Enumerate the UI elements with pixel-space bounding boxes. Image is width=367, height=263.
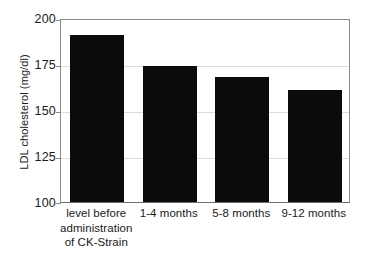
bar xyxy=(215,77,269,202)
x-category-label-line: 1-4 months xyxy=(133,206,206,221)
x-category-label-line: of CK-Strain xyxy=(60,235,133,250)
y-tick-label: 200 xyxy=(22,13,56,25)
bar xyxy=(70,35,124,202)
y-tick-label: 150 xyxy=(22,105,56,117)
y-tick-mark xyxy=(56,203,61,204)
plot-area xyxy=(60,19,350,203)
y-tick-label: 175 xyxy=(22,59,56,71)
bar-chart: LDL cholesterol (mg/dl) 100125150175200 … xyxy=(0,0,367,263)
x-category-label: level beforeadministrationof CK-Strain xyxy=(60,206,133,250)
bar xyxy=(143,66,197,202)
y-axis-tick-labels: 100125150175200 xyxy=(22,0,56,263)
x-category-label-line: 5-8 months xyxy=(205,206,278,221)
x-category-label-line: level before xyxy=(60,206,133,221)
x-category-label-line: 9-12 months xyxy=(278,206,351,221)
bar-series xyxy=(61,20,349,202)
x-category-label: 1-4 months xyxy=(133,206,206,221)
bar xyxy=(288,90,342,202)
y-tick-label: 125 xyxy=(22,151,56,163)
x-category-label: 5-8 months xyxy=(205,206,278,221)
y-tick-label: 100 xyxy=(22,197,56,209)
x-category-label: 9-12 months xyxy=(278,206,351,221)
x-axis-category-labels: level beforeadministrationof CK-Strain1-… xyxy=(60,206,350,262)
x-category-label-line: administration xyxy=(60,221,133,236)
